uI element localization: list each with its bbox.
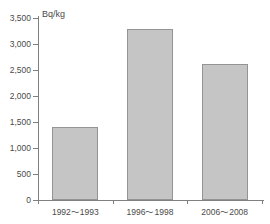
x-tick-mark: [38, 200, 39, 204]
x-tick-mark: [187, 200, 188, 204]
y-tick-label: 500: [0, 169, 31, 179]
y-tick-label: 2,500: [0, 65, 31, 75]
y-tick-label: 0: [0, 195, 31, 205]
x-axis-category-label: 1992～1993: [52, 205, 99, 217]
y-tick-label: 3,000: [0, 39, 31, 49]
x-tick-mark: [262, 200, 263, 204]
y-axis-line: [38, 16, 39, 201]
y-tick-mark: [33, 70, 38, 71]
bar-chart: Bq/kg 05001,0001,5002,0002,5003,0003,500…: [0, 0, 270, 224]
y-tick-mark: [33, 148, 38, 149]
y-tick-mark: [33, 44, 38, 45]
x-tick-mark: [113, 200, 114, 204]
y-tick-label: 2,000: [0, 91, 31, 101]
y-tick-mark: [33, 18, 38, 19]
bar: [202, 64, 248, 200]
x-axis-category-label: 2006～2008: [201, 205, 248, 217]
bar: [127, 29, 173, 200]
y-tick-label: 3,500: [0, 13, 31, 23]
y-tick-label: 1,000: [0, 143, 31, 153]
x-axis-category-label: 1996～1998: [127, 205, 174, 217]
x-axis-line: [38, 200, 264, 201]
y-tick-mark: [33, 96, 38, 97]
y-tick-label: 1,500: [0, 117, 31, 127]
y-tick-mark: [33, 122, 38, 123]
bar: [52, 127, 98, 200]
y-tick-mark: [33, 174, 38, 175]
y-axis-unit-label: Bq/kg: [42, 9, 65, 19]
